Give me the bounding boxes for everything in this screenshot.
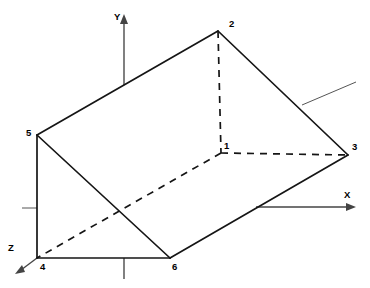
diagram-canvas [0,0,370,288]
visible-edges-group [37,31,348,258]
diagram-root: 1 2 3 4 5 6 Y X Z [0,0,370,288]
hidden-edges-group [37,31,348,258]
vertex-label-3: 3 [352,142,357,152]
vertex-label-4: 4 [40,262,45,272]
axis-z-arrowhead [15,265,25,274]
vertex-label-5: 5 [26,128,31,138]
axis-label-y: Y [114,12,120,22]
edge-2-1-hidden [218,31,221,153]
axis-z-line [21,258,37,270]
axis-y-arrowhead [120,14,128,24]
axis-label-x: X [344,190,350,200]
edge-1-4-hidden [37,153,221,258]
edge-1-3-hidden [221,153,348,155]
axis-z-group [15,258,37,274]
axis-x-group [256,203,356,211]
axis-y-group [120,14,128,85]
vertex-label-2: 2 [229,19,234,29]
leader-line-right [302,82,356,105]
vertex-label-1: 1 [224,141,229,151]
axis-x-arrowhead [346,203,356,211]
edge-5-6 [37,135,170,258]
vertex-label-6: 6 [172,262,177,272]
edge-5-2 [37,31,218,135]
axis-label-z: Z [8,243,14,253]
edge-2-3 [218,31,348,155]
